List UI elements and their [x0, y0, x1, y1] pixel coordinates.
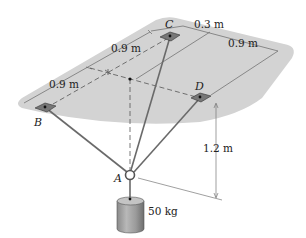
dim-label-height: 1.2 m — [203, 142, 233, 154]
label-point-A: A — [113, 172, 122, 185]
mass-cylinder — [117, 197, 144, 233]
ring-A — [126, 171, 135, 180]
label-point-D: D — [194, 80, 204, 93]
dim-label-lower-left: 0.9 m — [49, 78, 79, 90]
mass-label: 50 kg — [148, 205, 178, 217]
statics-diagram: C D B A 0.3 m 0.9 m 0.9 m 0.9 m 1.2 m 50… — [0, 0, 306, 238]
dim-label-upper-left: 0.9 m — [111, 42, 141, 54]
plate — [18, 17, 294, 123]
label-point-C: C — [165, 18, 174, 31]
dim-label-right-width: 0.9 m — [228, 37, 258, 49]
dim-label-c-offset: 0.3 m — [194, 18, 224, 30]
center-point — [128, 77, 131, 80]
label-point-B: B — [33, 116, 42, 129]
